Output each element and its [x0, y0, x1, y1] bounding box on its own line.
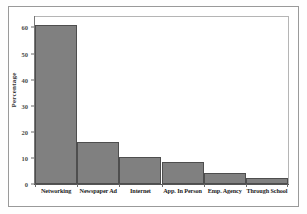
bar-chart-figure: Percentage 0102030405060 NetworkingNewsp… [0, 0, 307, 214]
x-tick-label: Internet [130, 187, 151, 194]
bar [119, 157, 161, 184]
y-tick-label: 20 [22, 128, 29, 135]
y-tick-label: 10 [22, 154, 29, 161]
y-axis-ticks: 0102030405060 [0, 0, 34, 214]
y-tick-label: 50 [22, 50, 29, 57]
bar [35, 25, 77, 184]
x-tick-label: Networking [41, 187, 71, 194]
bar [77, 142, 119, 184]
x-axis-labels: NetworkingNewspaper AdInternetApp. In Pe… [35, 187, 288, 201]
y-tick-mark [31, 184, 34, 185]
y-tick-mark [31, 105, 34, 106]
bars-container [35, 17, 288, 184]
x-tick-label: Newspaper Ad [80, 187, 117, 194]
y-tick-mark [31, 53, 34, 54]
y-tick-mark [31, 131, 34, 132]
x-tick-label: App. In Person [163, 187, 202, 194]
y-tick-label: 60 [22, 24, 29, 31]
x-tick-label: Through School [246, 187, 287, 194]
y-tick-label: 30 [22, 102, 29, 109]
y-tick-mark [31, 157, 34, 158]
bar [204, 173, 246, 184]
bar [162, 162, 204, 184]
y-tick-mark [31, 79, 34, 80]
x-tick-label: Emp. Agency [208, 187, 242, 194]
y-tick-label: 40 [22, 76, 29, 83]
y-tick-mark [31, 27, 34, 28]
y-tick-label: 0 [25, 181, 28, 188]
